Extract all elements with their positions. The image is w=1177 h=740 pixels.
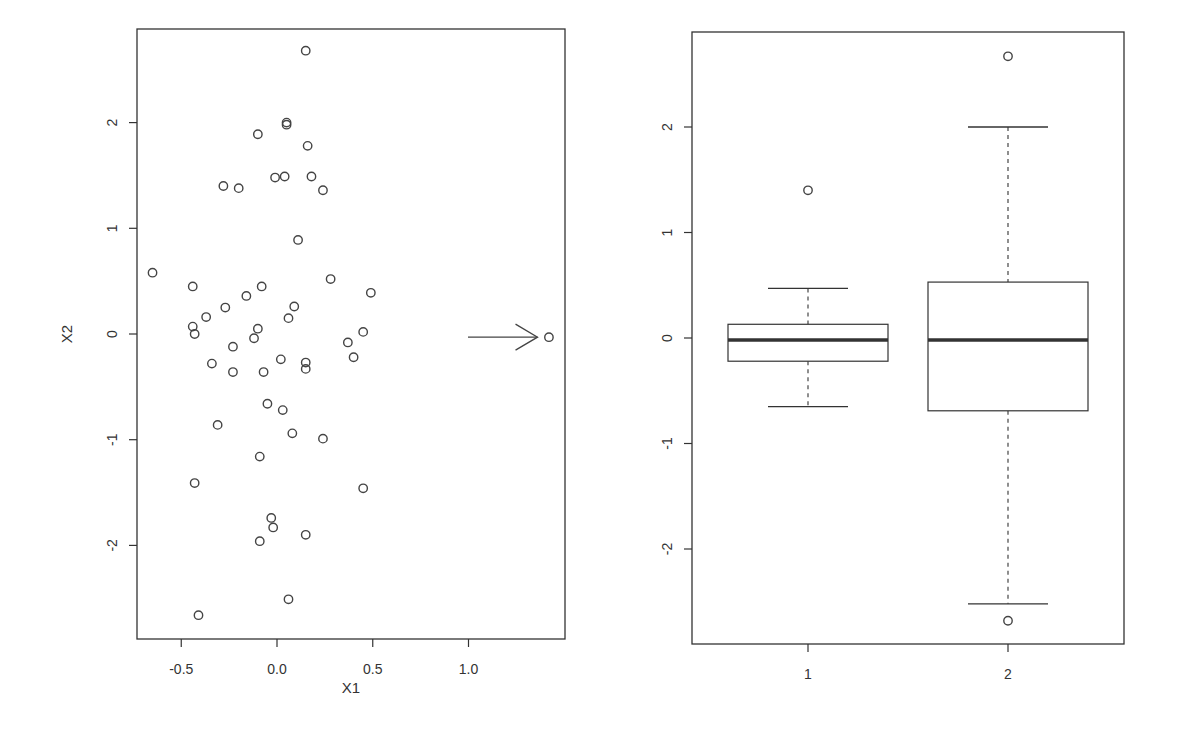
scatter-plot-frame	[137, 29, 565, 639]
scatter-plot-panel: -0.50.00.51.0 -2-1012 X1 X2	[58, 29, 565, 696]
y-tick-label: 1	[659, 228, 675, 236]
interquartile-box	[728, 324, 888, 361]
data-point	[319, 186, 327, 194]
y-tick-label: 0	[659, 334, 675, 342]
box-1	[728, 186, 888, 406]
data-point	[303, 142, 311, 150]
data-point	[235, 184, 243, 192]
y-tick-label: 0	[104, 330, 120, 338]
arrow-annotation-icon	[468, 324, 538, 350]
data-point	[257, 282, 265, 290]
outlier-point	[1004, 617, 1012, 625]
y-tick-label: 2	[659, 123, 675, 131]
data-point	[256, 537, 264, 545]
data-point	[319, 434, 327, 442]
data-point	[290, 302, 298, 310]
data-point	[280, 172, 288, 180]
scatter-x-axis-label: X1	[342, 679, 360, 696]
x-tick-label: 1	[804, 666, 812, 682]
y-tick-label: -2	[104, 539, 120, 552]
data-point	[219, 182, 227, 190]
figure: -0.50.00.51.0 -2-1012 X1 X2 -2-1012 12	[0, 0, 1177, 740]
box-2	[928, 52, 1088, 625]
scatter-points	[148, 47, 553, 620]
data-point	[359, 328, 367, 336]
data-point	[359, 484, 367, 492]
x-tick-label: 1.0	[459, 661, 479, 677]
y-tick-label: -1	[659, 437, 675, 450]
boxplot-panel: -2-1012 12	[659, 32, 1124, 682]
data-point	[229, 342, 237, 350]
data-point	[267, 514, 275, 522]
data-point	[545, 333, 553, 341]
data-point	[294, 236, 302, 244]
x-tick-label: 0.0	[267, 661, 287, 677]
data-point	[254, 325, 262, 333]
x-tick-label: 0.5	[363, 661, 383, 677]
x-tick-label: -0.5	[169, 661, 193, 677]
data-point	[263, 400, 271, 408]
data-point	[307, 172, 315, 180]
data-point	[242, 292, 250, 300]
data-point	[302, 365, 310, 373]
data-point	[256, 452, 264, 460]
data-point	[269, 523, 277, 531]
data-point	[250, 334, 258, 342]
y-tick-label: 2	[104, 118, 120, 126]
data-point	[254, 130, 262, 138]
data-point	[367, 289, 375, 297]
scatter-y-axis-label: X2	[58, 325, 75, 343]
data-point	[326, 275, 334, 283]
data-point	[221, 303, 229, 311]
scatter-x-axis: -0.50.00.51.0	[169, 639, 478, 677]
data-point	[277, 355, 285, 363]
data-point	[344, 338, 352, 346]
scatter-y-axis: -2-1012	[104, 118, 137, 551]
data-point	[194, 611, 202, 619]
data-point	[302, 47, 310, 55]
data-point	[279, 406, 287, 414]
outlier-point	[804, 186, 812, 194]
data-point	[148, 268, 156, 276]
data-point	[271, 173, 279, 181]
data-point	[284, 314, 292, 322]
data-point	[189, 282, 197, 290]
x-tick-label: 2	[1004, 666, 1012, 682]
data-point	[202, 313, 210, 321]
data-point	[259, 368, 267, 376]
boxplot-y-axis: -2-1012	[659, 123, 692, 555]
boxplot-x-axis: 12	[804, 644, 1012, 682]
data-point	[302, 531, 310, 539]
data-point	[213, 421, 221, 429]
y-tick-label: 1	[104, 224, 120, 232]
outlier-point	[1004, 52, 1012, 60]
data-point	[288, 429, 296, 437]
data-point	[208, 359, 216, 367]
boxplot-boxes	[728, 52, 1088, 625]
data-point	[349, 353, 357, 361]
data-point	[284, 595, 292, 603]
y-tick-label: -2	[659, 543, 675, 556]
y-tick-label: -1	[104, 433, 120, 446]
data-point	[190, 479, 198, 487]
interquartile-box	[928, 282, 1088, 411]
data-point	[229, 368, 237, 376]
